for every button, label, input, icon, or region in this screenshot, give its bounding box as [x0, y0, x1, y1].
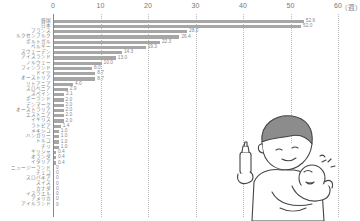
- value-label: 4.0: [75, 82, 82, 86]
- value-label: 0: [56, 203, 59, 207]
- bar: [54, 35, 179, 38]
- bar: [54, 130, 59, 133]
- bar: [54, 109, 64, 112]
- bar: [54, 93, 64, 96]
- bar: [54, 156, 56, 159]
- value-label: 52.0: [303, 24, 312, 28]
- bar: [54, 67, 92, 70]
- bar: [54, 98, 64, 101]
- category-label: ポーランド: [26, 97, 51, 101]
- value-label: 8.7: [97, 77, 104, 81]
- bar: [54, 135, 59, 138]
- gridline: [196, 14, 197, 217]
- value-label: 10.0: [104, 61, 113, 65]
- category-label: ルクセンブルク: [16, 34, 51, 38]
- x-tick-label: 20: [144, 2, 152, 9]
- bar: [54, 51, 122, 54]
- value-label: 22.3: [162, 40, 171, 44]
- bar: [54, 125, 61, 128]
- bar: [54, 30, 187, 33]
- x-tick-label: 40: [239, 2, 247, 9]
- bar: [54, 104, 64, 107]
- value-label: 13.0: [118, 56, 127, 60]
- category-label: アイルランド: [21, 202, 51, 206]
- category-label: イギリス: [31, 118, 51, 122]
- bar: [54, 72, 95, 75]
- bar: [54, 114, 64, 117]
- category-label: オーストリア: [21, 76, 51, 80]
- category-label: トルコ: [36, 139, 51, 143]
- x-tick-label: 50: [287, 2, 295, 9]
- value-label: 19.3: [148, 45, 157, 49]
- category-label: イタリア: [31, 160, 51, 164]
- bar: [54, 140, 59, 143]
- bar: [54, 151, 56, 154]
- x-tick-label: 10: [97, 2, 105, 9]
- bar: [54, 20, 304, 23]
- father-holding-baby-illustration: [232, 112, 360, 221]
- x-tick-label: 30: [192, 2, 200, 9]
- category-label: アイスランド: [21, 55, 51, 59]
- x-tick-label: 0: [51, 2, 55, 9]
- category-label: スイス: [36, 181, 51, 185]
- bar: [54, 25, 301, 28]
- value-label: 26.4: [181, 35, 190, 39]
- gridline: [101, 14, 102, 217]
- bar: [54, 41, 160, 44]
- unit-label: （週）: [341, 2, 360, 12]
- father-baby-icon: [232, 112, 360, 221]
